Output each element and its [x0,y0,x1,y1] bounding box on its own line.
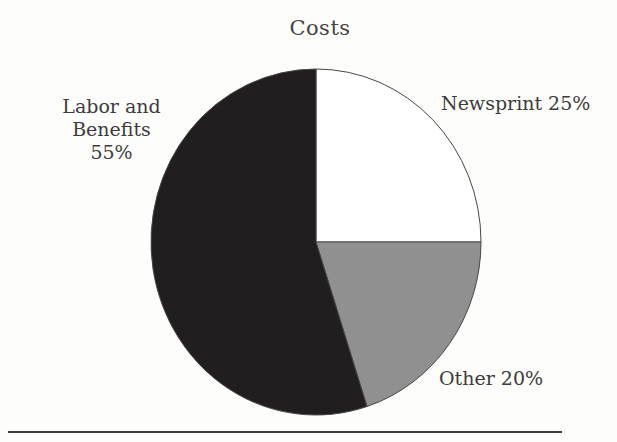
pie-chart-figure: Costs Labor and Benefits 55% Newsprint 2… [0,0,617,442]
slice-label-labor-name: Labor and Benefits [20,95,203,141]
slice-label-newsprint: Newsprint 25% [441,92,590,115]
slice-label-labor-percent: 55% [20,141,203,164]
bottom-rule [8,431,562,433]
slice-label-labor-and-benefits: Labor and Benefits 55% [20,95,203,163]
slice-label-other: Other 20% [439,367,543,390]
